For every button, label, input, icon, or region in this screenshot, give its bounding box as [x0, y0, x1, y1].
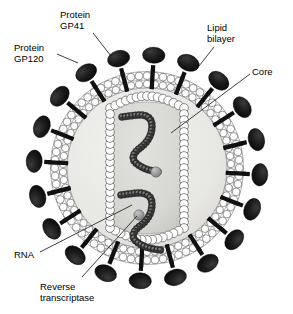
phospholipid-head-inner — [226, 176, 233, 183]
phospholipid-head-inner — [212, 213, 219, 220]
phospholipid-head-inner — [64, 192, 71, 199]
phospholipid-head-inner — [75, 116, 82, 123]
phospholipid-head-outer — [234, 148, 242, 156]
phospholipid-head-outer — [232, 188, 240, 196]
phospholipid-head-outer — [72, 223, 80, 231]
phospholipid-head-outer — [51, 172, 59, 180]
label-rna: RNA — [14, 249, 34, 260]
phospholipid-head-outer — [54, 140, 62, 148]
spike-stalk-gp41 — [226, 173, 246, 174]
phospholipid-head-inner — [225, 184, 232, 191]
phospholipid-head-outer — [189, 84, 197, 92]
phospholipid-head-outer — [182, 248, 190, 256]
phospholipid-head-outer — [235, 164, 243, 172]
phospholipid-head-inner — [143, 80, 150, 87]
phospholipid-head-outer — [51, 164, 59, 172]
rna-bead-highlight — [158, 248, 161, 251]
spike-head-gp120 — [72, 60, 99, 86]
spike-head-gp120 — [142, 47, 165, 64]
label-rna-text: RNA — [14, 249, 34, 260]
leader-gp120 — [57, 54, 78, 63]
phospholipid-head-inner — [59, 168, 66, 175]
phospholipid-head-outer — [119, 253, 127, 261]
spike-head-gp120 — [26, 150, 43, 173]
phospholipid-head-outer — [227, 125, 235, 133]
label-core-text: Core — [252, 66, 273, 77]
phospholipid-head-outer — [227, 203, 235, 211]
phospholipid-head-inner — [135, 81, 142, 88]
rna-nucleotide-bead — [157, 246, 164, 253]
spike-stalk-gp41 — [152, 69, 153, 89]
label-protein-gp41-line2: GP41 — [60, 20, 84, 31]
phospholipid-head-outer — [97, 244, 105, 252]
phospholipid-head-inner — [182, 239, 189, 246]
phospholipid-head-inner — [201, 225, 208, 232]
spike-head-gp120 — [27, 184, 48, 210]
phospholipid-head-inner — [175, 242, 182, 249]
spike-stalk-gp41 — [141, 247, 142, 267]
phospholipid-head-outer — [56, 196, 64, 204]
spike-head-gp120 — [129, 272, 152, 289]
label-lipid-bilayer-line2: bilayer — [207, 33, 235, 44]
label-protein-gp41-line1: Protein — [60, 9, 90, 20]
phospholipid-head-inner — [91, 98, 98, 105]
phospholipid-head-inner — [62, 145, 69, 152]
label-reverse-transcriptase-line2: transcriptase — [40, 292, 94, 303]
phospholipid-head-outer — [159, 255, 167, 263]
phospholipid-head-outer — [67, 111, 75, 119]
phospholipid-head-outer — [84, 93, 92, 101]
label-protein-gp120-line1: Protein — [14, 42, 44, 53]
phospholipid-head-outer — [182, 80, 190, 88]
phospholipid-head-inner — [98, 235, 105, 242]
phospholipid-head-inner — [207, 109, 214, 116]
phospholipid-head-outer — [52, 180, 60, 188]
label-protein-gp41: ProteinGP41 — [60, 9, 90, 31]
phospholipid-head-inner — [112, 86, 119, 93]
spike-head-gp120 — [246, 127, 267, 153]
spike-head-gp120 — [163, 267, 189, 288]
phospholipid-head-inner — [127, 247, 134, 254]
spike-head-gp120 — [229, 93, 255, 120]
phospholipid-head-outer — [143, 256, 151, 264]
phospholipid-head-outer — [230, 133, 238, 141]
label-protein-gp120: ProteinGP120 — [14, 42, 44, 64]
phospholipid-head-outer — [135, 72, 143, 80]
phospholipid-head-inner — [182, 90, 189, 97]
phospholipid-head-outer — [59, 203, 67, 211]
phospholipid-head-outer — [159, 73, 167, 81]
spike-head-gp120 — [241, 196, 264, 223]
label-lipid-bilayer-line1: Lipid — [207, 22, 227, 33]
label-core: Core — [252, 66, 273, 77]
phospholipid-head-outer — [112, 77, 120, 85]
phospholipid-head-inner — [85, 104, 92, 111]
leader-lipid — [199, 47, 214, 66]
label-protein-gp120-line2: GP120 — [14, 53, 44, 64]
phospholipid-head-inner — [159, 82, 166, 89]
phospholipid-head-inner — [226, 152, 233, 159]
spike-head-gp120 — [106, 48, 132, 69]
phospholipid-head-outer — [223, 210, 231, 218]
phospholipid-head-outer — [208, 229, 216, 237]
leader-gp41 — [93, 33, 111, 56]
spike-head-gp120 — [194, 250, 221, 276]
phospholipid-head-outer — [219, 217, 227, 225]
spike-head-gp120 — [251, 163, 268, 186]
phospholipid-head-outer — [234, 180, 242, 188]
core-boundary-circle — [106, 110, 115, 119]
phospholipid-head-inner — [60, 176, 67, 183]
phospholipid-head-outer — [202, 235, 210, 243]
phospholipid-head-inner — [105, 90, 112, 97]
spike-stalk-gp41 — [48, 162, 68, 163]
phospholipid-head-outer — [63, 118, 71, 126]
phospholipid-head-outer — [196, 88, 204, 96]
phospholipid-head-inner — [85, 225, 92, 232]
phospholipid-head-inner — [60, 152, 67, 159]
phospholipid-head-outer — [151, 256, 159, 264]
spike-head-gp120 — [39, 215, 65, 242]
phospholipid-head-inner — [189, 94, 196, 101]
phospholipid-head-inner — [223, 137, 230, 144]
phospholipid-head-inner — [71, 122, 78, 129]
phospholipid-head-outer — [59, 125, 67, 133]
phospholipid-head-outer — [127, 73, 135, 81]
reverse-transcriptase-lower — [134, 210, 144, 220]
